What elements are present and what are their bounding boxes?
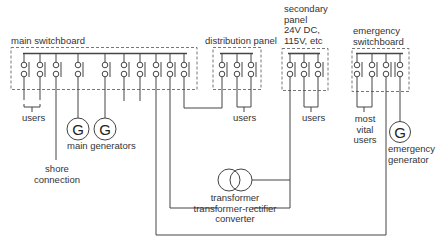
most-vital-users-line1: most (352, 114, 378, 125)
main-switchboard-label: main switchboard (11, 36, 85, 47)
emergency-generator-line1: emergency (388, 144, 435, 155)
shore-connection-line2: connection (34, 175, 80, 186)
transformer-label-line1: transformer (180, 193, 290, 204)
secondary-panel-label: secondary panel 24V DC, 115V, etc (284, 4, 328, 46)
shore-connection-label: shore connection (34, 164, 80, 185)
shore-connection-line1: shore (34, 164, 80, 175)
emergency-generator-label: emergency generator (388, 144, 435, 165)
emergency-switchboard-label-line2: switchboard (353, 37, 404, 48)
emergency-switchboard-label: emergency switchboard (353, 26, 404, 47)
secondary-panel-label-line1: secondary (284, 4, 328, 15)
transformer-label: transformer transformer-rectifier conver… (180, 193, 290, 225)
users-label-distribution: users (233, 113, 256, 124)
users-label-main: users (22, 113, 45, 124)
emergency-switchboard-label-line1: emergency (353, 26, 404, 37)
emergency-generator-line2: generator (388, 155, 435, 166)
transformer-label-line3: converter (180, 214, 290, 225)
most-vital-users-line3: users (352, 135, 378, 146)
users-label-secondary: users (302, 113, 325, 124)
secondary-panel-label-line3: 24V DC, (284, 25, 328, 36)
main-generators-label: main generators (67, 141, 136, 152)
secondary-panel-label-line4: 115V, etc (284, 36, 328, 47)
distribution-panel-label: distribution panel (205, 36, 277, 47)
most-vital-users-label: most vital users (352, 114, 378, 146)
